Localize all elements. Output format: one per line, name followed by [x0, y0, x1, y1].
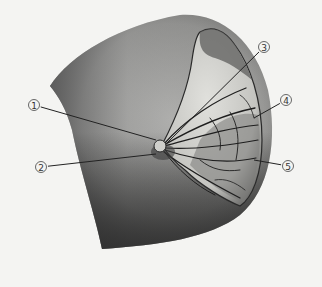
breast-anatomy-diagram: 12345: [0, 0, 322, 287]
callout-number: 3: [261, 43, 267, 53]
callout-number: 5: [285, 162, 291, 172]
callout-number: 1: [31, 101, 37, 111]
callout-number: 2: [38, 163, 44, 173]
callout-number: 4: [283, 96, 289, 106]
